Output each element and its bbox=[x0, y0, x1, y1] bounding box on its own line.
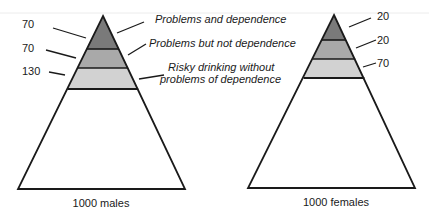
pyramid-diagram: 70 70 130 1000 males Problems and depend… bbox=[0, 0, 429, 217]
male-value-middle: 70 bbox=[22, 42, 34, 54]
female-caption: 1000 females bbox=[303, 196, 370, 208]
label-problems-not-dependence: Problems but not dependence bbox=[149, 37, 296, 49]
female-value-middle: 20 bbox=[377, 34, 389, 46]
male-segment-problems-dependence bbox=[87, 16, 119, 49]
male-value-top: 70 bbox=[22, 18, 34, 30]
male-leader-top bbox=[53, 28, 86, 38]
male-caption: 1000 males bbox=[73, 197, 130, 209]
leader-problems-dependence bbox=[117, 22, 144, 33]
label-risky-drinking-line1: Risky drinking without bbox=[168, 61, 275, 73]
label-risky-drinking-line2: problems of dependence bbox=[159, 73, 281, 85]
male-leader-middle bbox=[46, 50, 76, 58]
female-leader-middle bbox=[356, 40, 376, 48]
female-segment-problems-dependence bbox=[322, 15, 346, 40]
female-leader-top bbox=[349, 18, 371, 27]
male-leader-bottom bbox=[49, 72, 65, 75]
female-leader-bottom bbox=[363, 63, 376, 67]
male-segment-risky-drinking bbox=[68, 68, 138, 89]
leader-problems-not-dependence bbox=[128, 44, 146, 55]
category-labels: Problems and dependence Problems but not… bbox=[117, 13, 296, 85]
female-value-bottom: 70 bbox=[377, 57, 389, 69]
label-problems-dependence: Problems and dependence bbox=[155, 13, 286, 25]
female-value-top: 20 bbox=[377, 10, 389, 22]
male-value-bottom: 130 bbox=[22, 65, 40, 77]
